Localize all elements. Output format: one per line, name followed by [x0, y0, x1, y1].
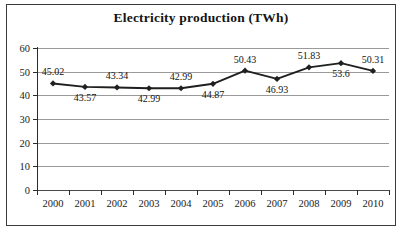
data-point-marker: [274, 76, 280, 82]
data-point-marker: [50, 80, 56, 86]
data-point-marker: [210, 81, 216, 87]
data-point-marker: [178, 85, 184, 91]
data-point-label: 45.02: [31, 66, 75, 77]
data-point-marker: [242, 68, 248, 74]
data-point-marker: [82, 84, 88, 90]
chart-figure: Electricity production (TWh) 01020304050…: [0, 0, 402, 232]
line-series: [0, 0, 402, 232]
data-point-marker: [338, 60, 344, 66]
data-point-label: 44.87: [191, 89, 235, 100]
data-point-label: 43.57: [63, 92, 107, 103]
data-point-label: 51.83: [287, 50, 331, 61]
data-point-label: 42.99: [127, 93, 171, 104]
data-point-label: 50.43: [223, 54, 267, 65]
data-point-label: 42.99: [159, 71, 203, 82]
data-point-marker: [370, 68, 376, 74]
data-point-label: 53.6: [319, 68, 363, 79]
data-point-label: 50.31: [351, 54, 395, 65]
data-point-marker: [114, 84, 120, 90]
data-point-marker: [146, 85, 152, 91]
data-point-marker: [306, 64, 312, 70]
data-point-label: 43.34: [95, 70, 139, 81]
data-point-label: 46.93: [255, 84, 299, 95]
